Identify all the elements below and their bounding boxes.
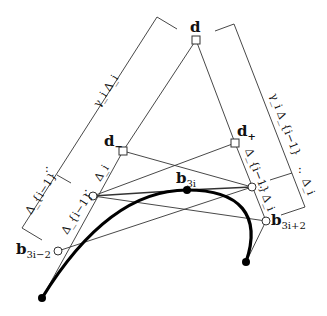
label-b3i-minus-2: b3i−2	[16, 240, 51, 260]
ratio-colon-left-edge: :	[84, 185, 88, 198]
label-left-edge-lower: Δ_{i−1}	[59, 190, 96, 237]
label-right-bracket-bottom: Δ_i	[299, 176, 317, 197]
left-dimension-bracket	[22, 17, 177, 240]
point-right-mid	[248, 183, 256, 191]
control-polygon	[42, 40, 266, 298]
label-left-edge-upper: Δ_i	[92, 162, 112, 184]
point-b3i-minus-2	[54, 247, 62, 255]
ratio-colon-left-bracket: :	[45, 162, 49, 175]
point-b3i-plus-2	[262, 217, 270, 225]
label-left-bracket-top: γ_i Δ_i	[91, 72, 122, 110]
label-b3i: b3i	[176, 169, 196, 189]
point-d	[192, 36, 200, 44]
label-d-minus: d−	[104, 132, 123, 152]
ratio-colon-right-edge: :	[259, 178, 263, 191]
point-d-plus	[231, 139, 239, 147]
label-b3i-plus-2: b3i+2	[271, 211, 306, 231]
label-d-plus: d+	[237, 122, 256, 142]
point-end	[242, 258, 250, 266]
label-left-bracket-bottom: Δ_{i−1}	[23, 170, 60, 217]
diagram-canvas: d d− d+ b3i b3i−2 b3i+2 γ_i Δ_i Δ_{i−1} …	[0, 0, 327, 316]
ratio-colon-right-bracket: :	[298, 163, 302, 176]
point-start	[38, 294, 46, 302]
bezier-diagram: d d− d+ b3i b3i−2 b3i+2 γ_i Δ_i Δ_{i−1} …	[0, 0, 327, 316]
label-d: d	[190, 18, 201, 36]
